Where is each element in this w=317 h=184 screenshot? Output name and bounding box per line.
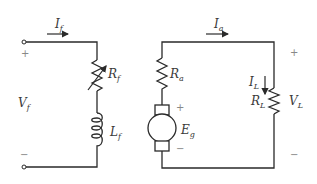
field-current-label: If <box>54 17 65 33</box>
armature-current-label: Ia <box>213 17 224 33</box>
field-terminal-top <box>22 40 26 44</box>
emf-plus-sign: + <box>176 102 184 113</box>
emf-label: Eg <box>180 123 195 139</box>
field-voltage-label: Vf <box>18 96 32 112</box>
field-circuit <box>22 34 106 169</box>
lower-brush-icon <box>155 141 169 151</box>
field-resistor-icon <box>92 60 102 91</box>
field-inductor-icon <box>92 113 103 150</box>
generator-icon <box>148 114 176 142</box>
load-resistor-label: RL <box>250 94 265 110</box>
load-resistor-icon <box>269 88 279 114</box>
armature-bottom-wire <box>162 114 274 168</box>
field-bottom-wire <box>26 150 97 167</box>
field-top-wire <box>26 42 97 60</box>
armature-resistor-label: Ra <box>169 67 184 83</box>
field-plus-sign: + <box>21 48 29 59</box>
load-current-label: IL <box>248 75 259 91</box>
emf-minus-sign: − <box>176 143 184 154</box>
field-inductor-label: Lf <box>109 125 123 141</box>
field-terminal-bottom <box>22 165 26 169</box>
load-voltage-label: VL <box>289 94 303 110</box>
dc-generator-circuit: If + Vf − Rf Lf Ia Ra + Eg − IL RL + VL … <box>0 0 317 184</box>
field-resistor-label: Rf <box>107 67 122 83</box>
field-minus-sign: − <box>20 149 28 160</box>
armature-resistor-icon <box>157 58 167 105</box>
load-plus-sign: + <box>290 47 298 58</box>
load-minus-sign: − <box>290 149 298 160</box>
